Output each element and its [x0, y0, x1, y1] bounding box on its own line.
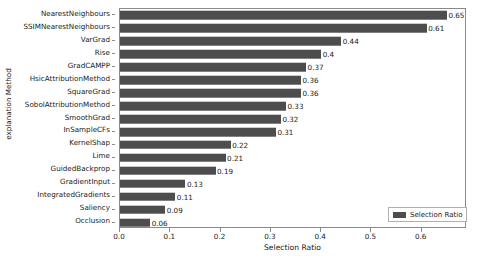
bar-value-label: 0.09	[165, 205, 183, 214]
bar-value-label: 0.32	[281, 114, 299, 123]
x-axis-tick-label: 0.5	[365, 232, 376, 241]
bar	[120, 102, 286, 111]
bar-value-label: 0.22	[231, 140, 249, 149]
bar-row: 0.11	[120, 190, 465, 203]
x-axis-tick-label: 0.0	[113, 232, 124, 241]
bar-row: 0.65	[120, 9, 465, 22]
bar-value-label: 0.11	[175, 192, 193, 201]
y-axis-tick-mark	[112, 131, 116, 132]
bar-value-label: 0.06	[150, 218, 168, 227]
x-axis-tick-mark	[220, 228, 221, 232]
bar-row: 0.36	[120, 87, 465, 100]
bar-value-label: 0.36	[301, 89, 319, 98]
y-axis-tick-mark	[112, 222, 116, 223]
y-axis-tick-label: SobolAttributionMethod	[25, 99, 110, 112]
bar-value-label: 0.4	[321, 50, 334, 59]
bar-row: 0.37	[120, 61, 465, 74]
bar-value-label: 0.19	[216, 166, 234, 175]
y-axis-tick-label: SquareGrad	[67, 86, 110, 99]
x-axis-tick-mark	[421, 228, 422, 232]
x-axis-tick-label: 0.2	[214, 232, 225, 241]
bar-value-label: 0.31	[276, 127, 294, 136]
bar-value-label: 0.21	[226, 153, 244, 162]
y-axis-tick-mark	[112, 14, 116, 15]
bar-value-label: 0.65	[447, 11, 465, 20]
y-axis-tick-label: SmoothGrad	[65, 112, 110, 125]
y-axis-tick-mark	[112, 170, 116, 171]
y-axis-tick-label: HsicAttributionMethod	[30, 73, 110, 86]
bar	[120, 115, 281, 124]
x-axis-tick-mark	[320, 228, 321, 232]
y-axis-tick-mark	[112, 105, 116, 106]
x-axis-tick-mark	[169, 228, 170, 232]
bar	[120, 218, 150, 227]
bar-row: 0.61	[120, 22, 465, 35]
y-axis-tick-label: Lime	[93, 150, 110, 163]
bar	[120, 11, 447, 20]
bar	[120, 63, 306, 72]
x-axis-tick-label: 0.6	[415, 232, 426, 241]
y-axis-tick-label: IntegratedGradients	[37, 189, 110, 202]
bar-chart-figure: explanation Method NearestNeighboursSSIM…	[0, 0, 486, 261]
bar	[120, 50, 321, 59]
bar	[120, 37, 341, 46]
y-axis-tick-mark	[112, 183, 116, 184]
bar-row: 0.44	[120, 35, 465, 48]
bar-row: 0.32	[120, 113, 465, 126]
y-axis-tick-mark	[112, 157, 116, 158]
bar	[120, 76, 301, 85]
bar-value-label: 0.13	[185, 179, 203, 188]
x-axis-tick-mark	[119, 228, 120, 232]
y-axis-tick-labels: NearestNeighboursSSIMNearestNeighboursVa…	[0, 8, 115, 228]
bar-row: 0.31	[120, 125, 465, 138]
y-axis-tick-mark	[112, 92, 116, 93]
legend-swatch-selection-ratio	[393, 212, 406, 218]
bar-row: 0.36	[120, 74, 465, 87]
bar-value-label: 0.33	[286, 102, 304, 111]
y-axis-tick-mark	[112, 53, 116, 54]
y-axis-tick-mark	[112, 209, 116, 210]
chart-legend: Selection Ratio	[388, 207, 467, 222]
y-axis-tick-mark	[112, 40, 116, 41]
bar-row: 0.13	[120, 177, 465, 190]
x-axis-tick-label: 0.4	[314, 232, 325, 241]
bar	[120, 89, 301, 98]
bar-value-label: 0.61	[427, 24, 445, 33]
y-axis-tick-label: VarGrad	[81, 34, 110, 47]
legend-label-selection-ratio: Selection Ratio	[410, 211, 462, 219]
bar-row: 0.22	[120, 138, 465, 151]
bar-value-label: 0.44	[341, 37, 359, 46]
bar-row: 0.33	[120, 100, 465, 113]
bar	[120, 205, 165, 214]
y-axis-tick-label: SSIMNearestNeighbours	[23, 21, 110, 34]
bar	[120, 179, 185, 188]
y-axis-tick-label: Saliency	[80, 202, 110, 215]
bar	[120, 192, 175, 201]
bar-row: 0.21	[120, 151, 465, 164]
x-axis-tick-label: 0.1	[164, 232, 175, 241]
bar	[120, 166, 216, 175]
y-axis-tick-mark	[112, 66, 116, 67]
y-axis-tick-label: Occlusion	[75, 215, 110, 228]
y-axis-tick-mark	[112, 196, 116, 197]
x-axis-title: Selection Ratio	[119, 243, 466, 252]
bar-value-label: 0.37	[306, 63, 324, 72]
y-axis-tick-label: Rise	[95, 47, 110, 60]
bar-row: 0.4	[120, 48, 465, 61]
y-axis-tick-mark	[112, 144, 116, 145]
y-axis-tick-label: GuidedBackprop	[51, 163, 110, 176]
y-axis-tick-label: InSampleCFs	[63, 124, 110, 137]
plot-area: 0.650.610.440.40.370.360.360.330.320.310…	[119, 8, 466, 228]
bar	[120, 154, 226, 163]
bar	[120, 128, 276, 137]
x-axis-tick-mark	[370, 228, 371, 232]
y-axis-tick-label: GradientInput	[60, 176, 110, 189]
bar	[120, 141, 231, 150]
x-axis-tick-label: 0.3	[264, 232, 275, 241]
y-axis-tick-mark	[112, 118, 116, 119]
x-axis-tick-mark	[270, 228, 271, 232]
y-axis-tick-label: NearestNeighbours	[41, 8, 110, 21]
y-axis-tick-mark	[112, 27, 116, 28]
bar-row: 0.19	[120, 164, 465, 177]
bar	[120, 24, 427, 33]
